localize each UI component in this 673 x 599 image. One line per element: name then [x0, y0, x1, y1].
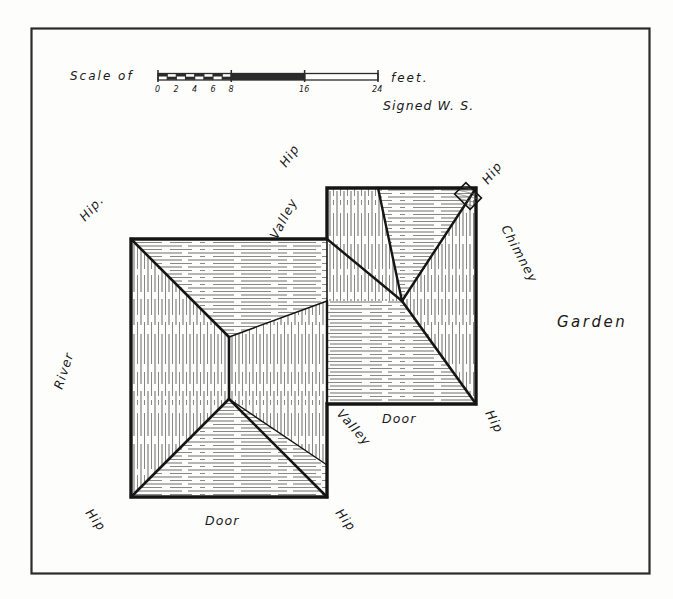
scale-tick-label-24: 24 [372, 85, 383, 94]
label-garden: Garden [557, 313, 627, 331]
drawing-sheet: Scale of [0, 0, 673, 599]
label-door-right: Door [382, 411, 416, 426]
scale-bar-solid-section [231, 74, 304, 81]
scale-tick-label-6: 6 [211, 85, 216, 94]
scale-tick-label-8: 8 [229, 85, 234, 94]
scale-tick-label-2: 2 [174, 85, 179, 94]
scale-tick-label-0: 0 [155, 85, 160, 94]
scale-tick-label-4: 4 [192, 85, 197, 94]
signature-label: Signed W. S. [383, 98, 474, 113]
scale-prefix-label: Scale of [70, 69, 134, 83]
label-door-bottom: Door [205, 513, 239, 528]
roof-plan-drawing: Scale of [0, 0, 673, 599]
scale-tick-label-16: 16 [299, 85, 310, 94]
scale-suffix-label: feet. [391, 71, 429, 85]
